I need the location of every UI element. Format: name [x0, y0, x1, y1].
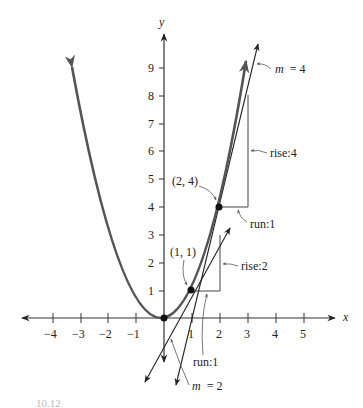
rise-4-label: rise:4 [270, 146, 297, 160]
x-tick-label: 3 [244, 327, 250, 341]
point-1-1 [188, 287, 195, 294]
point-2-4 [216, 204, 223, 211]
m-symbol: m [192, 379, 201, 393]
point-label-1-1: (1, 1) [170, 245, 196, 259]
point-label-2-4: (2, 4) [172, 174, 198, 188]
slope-value: = 4 [290, 62, 306, 76]
y-tick-label: 4 [148, 200, 154, 214]
figure-caption: 10.12 [36, 397, 61, 408]
y-tick-label: 2 [148, 256, 154, 270]
slope-value: = 2 [207, 379, 223, 393]
x-axis-label: x [342, 310, 349, 324]
leader-arrow-icon [183, 260, 187, 285]
x-tick-label: 2 [216, 327, 222, 341]
run-1-lower-label: run:1 [193, 355, 218, 369]
y-axis-label: y [158, 15, 165, 29]
y-axis: y 1 2 3 4 5 6 7 8 9 [148, 15, 165, 362]
x-tick-label: −4 [44, 327, 57, 341]
leader-arrow-icon [238, 210, 247, 222]
parabola-tangent-diagram: x −4 −3 −2 −1 1 2 3 4 5 y [0, 0, 363, 408]
x-tick-label: 4 [272, 327, 278, 341]
leader-arrow-icon [202, 294, 207, 355]
y-tick-label: 9 [148, 61, 154, 75]
leader-arrow-icon [257, 64, 271, 69]
svg-text:m = 4: m = 4 [275, 62, 305, 76]
x-tick-label: −3 [72, 327, 85, 341]
y-tick-label: 5 [148, 172, 154, 186]
y-tick-label: 7 [148, 117, 154, 131]
x-axis: x −4 −3 −2 −1 1 2 3 4 5 [22, 310, 349, 341]
y-ticks [159, 68, 164, 291]
svg-text:m = 2: m = 2 [192, 379, 222, 393]
leader-arrow-icon [251, 150, 267, 153]
rise-2-label: rise:2 [241, 259, 268, 273]
y-tick-label: 8 [148, 89, 154, 103]
x-tick-label: −2 [99, 327, 112, 341]
leader-arrow-icon [223, 264, 238, 266]
y-tick-label: 6 [148, 144, 154, 158]
leader-arrow-icon [199, 186, 216, 200]
m-symbol: m [275, 62, 284, 76]
y-tick-label: 3 [148, 228, 154, 242]
x-tick-label: −1 [127, 327, 140, 341]
x-tick-labels: −4 −3 −2 −1 1 2 3 4 5 [44, 327, 306, 341]
slope-label-m4: m = 4 [257, 62, 305, 76]
run-1-upper-label: run:1 [250, 217, 275, 231]
x-tick-label: 5 [300, 327, 306, 341]
y-tick-label: 1 [148, 284, 154, 298]
rise-run-lower [192, 235, 220, 291]
leader-arrow-icon [171, 339, 189, 385]
y-tick-labels: 1 2 3 4 5 6 7 8 9 [148, 61, 154, 298]
origin-point [161, 315, 168, 322]
